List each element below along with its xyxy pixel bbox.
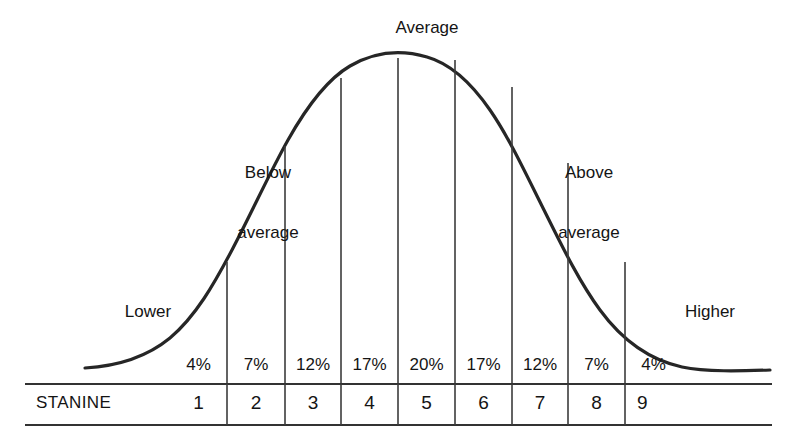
stanine-cell-6: 6 <box>455 392 512 414</box>
stanine-cell-3: 3 <box>285 392 341 414</box>
percent-cell-2: 7% <box>227 355 285 375</box>
stanine-cell-4: 4 <box>341 392 398 414</box>
percent-cell-4: 17% <box>341 355 398 375</box>
percent-cell-6: 17% <box>455 355 512 375</box>
annotation-above-average-line2: average <box>523 223 655 243</box>
bell-curve-diagram <box>0 0 796 447</box>
annotation-average: Average <box>359 18 495 38</box>
percent-cell-8: 7% <box>568 355 625 375</box>
annotation-below-average: Below average <box>202 124 334 282</box>
annotation-lower: Lower <box>98 302 198 322</box>
percent-cell-3: 12% <box>285 355 341 375</box>
percent-cell-1: 4% <box>170 355 227 375</box>
stanine-cell-8: 8 <box>568 392 625 414</box>
annotation-below-average-line1: Below <box>202 163 334 183</box>
stanine-cell-9: 9 <box>625 392 682 414</box>
stanine-cell-2: 2 <box>227 392 285 414</box>
percent-cell-7: 12% <box>512 355 568 375</box>
percent-cell-9: 4% <box>625 355 682 375</box>
stanine-cell-5: 5 <box>398 392 455 414</box>
percent-cell-5: 20% <box>398 355 455 375</box>
annotation-below-average-line2: average <box>202 223 334 243</box>
annotation-higher: Higher <box>660 302 760 322</box>
annotation-above-average-line1: Above <box>523 163 655 183</box>
bell-curve-path <box>85 53 770 371</box>
stanine-cell-1: 1 <box>170 392 227 414</box>
annotation-above-average: Above average <box>523 124 655 282</box>
stanine-distribution-figure: Average Below average Above average Lowe… <box>0 0 796 447</box>
stanine-cell-7: 7 <box>512 392 568 414</box>
